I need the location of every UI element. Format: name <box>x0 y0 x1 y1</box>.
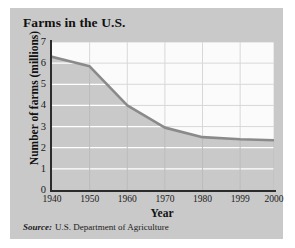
x-tick-label: 1970 <box>155 195 174 205</box>
y-tick-label: 1 <box>41 164 46 175</box>
plot-area <box>52 42 274 190</box>
x-tick-label: 1960 <box>118 195 137 205</box>
area-fill-path <box>52 57 274 190</box>
source-note: Source:U.S. Department of Agriculture <box>23 222 169 232</box>
plot-region: 01234567 1940195019601970198019992000 <box>50 42 274 192</box>
x-tick-label: 1940 <box>43 195 62 205</box>
y-tick-label: 7 <box>41 37 46 48</box>
chart-figure-card: Farms in the U.S. Number of farms (milli… <box>10 8 283 239</box>
y-tick-label: 3 <box>41 121 46 132</box>
x-axis-title: Year <box>50 207 274 219</box>
y-tick-label: 6 <box>41 58 46 69</box>
chart-canvas <box>52 42 274 190</box>
source-text: U.S. Department of Agriculture <box>55 222 169 232</box>
x-tick-label: 2000 <box>265 195 284 205</box>
source-label: Source: <box>23 222 52 232</box>
y-axis-title: Number of farms (millions) <box>28 23 40 173</box>
y-tick-label: 5 <box>41 79 46 90</box>
x-tick-label: 1999 <box>231 195 250 205</box>
x-axis-line <box>50 190 276 192</box>
y-axis-line <box>50 40 52 192</box>
y-tick-label: 4 <box>41 100 46 111</box>
x-tick-label: 1980 <box>193 195 212 205</box>
x-tick-label: 1950 <box>80 195 99 205</box>
y-tick-label: 2 <box>41 142 46 153</box>
